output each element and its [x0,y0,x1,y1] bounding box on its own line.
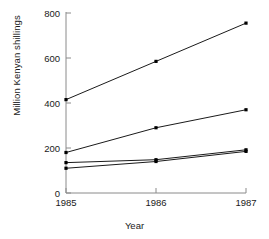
data-series-markers [64,22,247,170]
data-series-lines [66,23,246,168]
data-point-marker [154,160,157,163]
line-chart-plot: 0200400600800 198519861987 [0,0,269,239]
y-tick-label: 800 [44,8,60,19]
y-tick-label: 400 [44,98,60,109]
x-tick-label: 1986 [145,197,166,208]
data-point-marker [244,22,247,25]
x-axis-title: Year [0,220,269,231]
y-tick-label: 600 [44,53,60,64]
x-axis-tick-labels: 198519861987 [55,197,256,208]
chart-figure: Million Kenyan shillings 0200400600800 1… [0,0,269,239]
series-line [66,110,246,153]
y-axis-tick-labels: 0200400600800 [44,8,60,199]
x-tick-label: 1985 [55,197,76,208]
x-axis-ticks [66,188,246,193]
data-point-marker [64,98,67,101]
data-point-marker [154,126,157,129]
data-point-marker [244,150,247,153]
data-point-marker [154,60,157,63]
data-point-marker [244,108,247,111]
data-point-marker [64,167,67,170]
y-tick-label: 200 [44,143,60,154]
data-point-marker [64,161,67,164]
x-tick-label: 1987 [235,197,256,208]
y-axis-ticks [66,13,71,193]
data-point-marker [64,151,67,154]
